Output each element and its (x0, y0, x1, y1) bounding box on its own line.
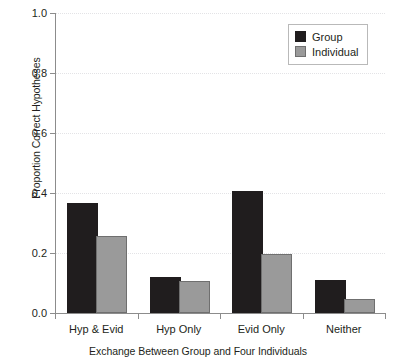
bar-individual-2 (261, 254, 292, 313)
gridline (56, 13, 385, 15)
bar-group-2 (232, 191, 263, 313)
x-tick-label: Evid Only (238, 323, 285, 335)
y-tick-label: 0.8 (32, 67, 47, 79)
legend-label-individual: Individual (312, 46, 358, 58)
chart-legend: Group Individual (288, 24, 368, 65)
bar-chart-figure: Proportion Correct Hypotheses 0.00.20.40… (0, 0, 396, 363)
bar-group-1 (150, 277, 181, 314)
y-tick-label: 0.2 (32, 247, 47, 259)
legend-swatch-individual-icon (295, 46, 306, 57)
x-tick-mark (220, 313, 221, 319)
x-tick-mark (138, 313, 139, 319)
y-tick-label: 0.0 (32, 307, 47, 319)
legend-item-group: Group (295, 29, 358, 44)
x-tick-label: Hyp Only (156, 323, 201, 335)
bar-individual-3 (344, 299, 375, 313)
y-tick-label: 0.4 (32, 187, 47, 199)
bar-individual-1 (179, 281, 210, 313)
gridline (56, 193, 385, 195)
x-axis-title: Exchange Between Group and Four Individu… (0, 345, 396, 357)
y-tick-label: 1.0 (32, 7, 47, 19)
gridline (56, 73, 385, 75)
x-tick-mark (385, 313, 386, 319)
legend-item-individual: Individual (295, 44, 358, 59)
y-tick-label: 0.6 (32, 127, 47, 139)
x-tick-mark (55, 313, 56, 319)
bar-individual-0 (96, 236, 127, 313)
y-axis-line (55, 13, 56, 313)
legend-label-group: Group (312, 31, 343, 43)
bar-group-0 (67, 203, 98, 313)
gridline (56, 133, 385, 135)
legend-swatch-group-icon (295, 31, 306, 42)
bar-group-3 (315, 280, 346, 314)
x-tick-label: Hyp & Evid (69, 323, 123, 335)
x-tick-mark (303, 313, 304, 319)
x-tick-label: Neither (326, 323, 361, 335)
